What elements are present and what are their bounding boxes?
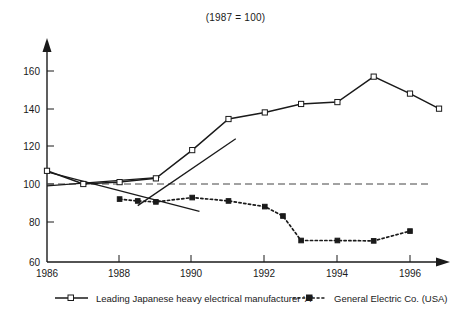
data-point-marker <box>117 197 122 202</box>
legend-entry-japanese[interactable]: Leading Japanese heavy electrical manufa… <box>55 293 313 304</box>
ge-trend-line <box>47 172 199 212</box>
x-tick-label-1996: 1996 <box>399 268 422 279</box>
y-tick-label-160: 160 <box>23 66 40 77</box>
y-axis <box>43 38 52 262</box>
legend-label-japanese: Leading Japanese heavy electrical manufa… <box>96 293 313 304</box>
data-point-marker <box>263 204 268 209</box>
y-axis-ticks <box>47 71 54 222</box>
data-point-marker <box>299 101 304 106</box>
x-tick-label-1986: 1986 <box>36 268 59 279</box>
data-point-marker <box>81 181 86 186</box>
legend-label-general-electric: General Electric Co. (USA) <box>334 293 448 304</box>
data-point-marker <box>371 74 376 79</box>
chart-legend: Leading Japanese heavy electrical manufa… <box>37 293 448 304</box>
data-point-marker <box>407 91 412 96</box>
y-tick-label-100: 100 <box>23 179 40 190</box>
data-point-marker <box>135 199 140 204</box>
data-point-marker <box>335 99 340 104</box>
legend-open-square-icon <box>68 295 74 301</box>
y-tick-label-60: 60 <box>29 257 41 268</box>
data-point-marker <box>281 214 286 219</box>
ge-rise-segment <box>138 139 236 206</box>
chart-container: (1987 = 100) 160 140 120 100 80 60 <box>0 0 471 319</box>
y-tick-label-80: 80 <box>29 217 41 228</box>
data-point-marker <box>190 195 195 200</box>
japanese-trend-line <box>47 177 160 185</box>
data-point-marker <box>153 176 158 181</box>
series-japanese-manufacturer <box>44 74 441 187</box>
data-point-marker <box>371 239 376 244</box>
data-point-marker <box>408 229 413 234</box>
data-point-marker <box>436 106 441 111</box>
data-point-marker <box>299 238 304 243</box>
y-tick-label-140: 140 <box>23 104 40 115</box>
x-tick-label-1990: 1990 <box>180 268 203 279</box>
x-axis <box>47 258 450 267</box>
series-ge-markers <box>117 195 412 243</box>
data-point-marker <box>44 168 49 173</box>
data-point-marker <box>262 110 267 115</box>
x-tick-label-1992: 1992 <box>253 268 276 279</box>
x-tick-label-1988: 1988 <box>108 268 131 279</box>
data-point-marker <box>335 238 340 243</box>
legend-filled-square-icon <box>307 295 313 301</box>
legend-entry-general-electric[interactable]: General Electric Co. (USA) <box>293 293 448 304</box>
series-japanese-markers <box>44 74 441 187</box>
data-point-marker <box>154 200 159 205</box>
data-point-marker <box>117 180 122 185</box>
x-axis-ticks <box>119 255 410 262</box>
series-general-electric <box>117 195 412 243</box>
chart-plot-area: 160 140 120 100 80 60 1986 1988 1990 199… <box>0 0 471 319</box>
data-point-marker <box>190 148 195 153</box>
series-japanese-line <box>47 77 439 184</box>
y-tick-label-120: 120 <box>23 141 40 152</box>
x-tick-label-1994: 1994 <box>326 268 349 279</box>
data-point-marker <box>226 116 231 121</box>
data-point-marker <box>226 199 231 204</box>
